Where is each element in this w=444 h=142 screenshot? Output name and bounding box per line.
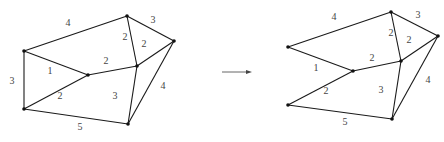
node-B — [22, 107, 26, 111]
edge-weight-label: 2 — [123, 31, 128, 42]
node-G — [390, 117, 394, 121]
edge-A-D — [288, 12, 391, 47]
edge-A-D — [24, 16, 127, 51]
edge-weight-label: 2 — [104, 55, 109, 66]
transform-arrow-icon — [222, 70, 252, 74]
edge-weight-label: 2 — [58, 90, 63, 101]
edge-weight-label: 3 — [416, 9, 421, 20]
edge-weight-label: 2 — [324, 85, 329, 96]
edge-weight-label: 5 — [343, 116, 348, 127]
node-G — [126, 122, 130, 126]
edge-weight-label: 3 — [10, 75, 15, 86]
edge-weight-label: 2 — [407, 34, 412, 45]
edge-B-C — [24, 75, 88, 109]
edge-weight-label: 1 — [48, 65, 53, 76]
edge-B-G — [24, 109, 128, 124]
edge-weight-label: 1 — [314, 62, 319, 73]
graph-before: 43125223234 — [10, 14, 176, 132]
edge-weight-label: 3 — [113, 90, 118, 101]
edge-A-C — [24, 51, 88, 75]
edge-weight-label: 3 — [151, 14, 156, 25]
edge-A-C — [288, 47, 353, 71]
edge-D-F — [127, 16, 137, 66]
node-B — [286, 103, 290, 107]
edge-weight-label: 5 — [78, 121, 83, 132]
arrow-head — [246, 70, 252, 74]
edge-B-C — [288, 71, 353, 105]
node-F — [135, 64, 139, 68]
node-C — [86, 73, 90, 77]
node-E — [436, 34, 440, 38]
node-D — [389, 10, 393, 14]
node-A — [22, 49, 26, 53]
edge-weight-label: 4 — [161, 80, 166, 91]
edge-weight-label: 4 — [332, 11, 337, 22]
edge-weight-label: 4 — [66, 17, 71, 28]
edge-C-F — [353, 61, 401, 71]
edge-weight-label: 3 — [379, 84, 384, 95]
edge-D-E — [391, 12, 438, 36]
graph-after: 4125223234 — [286, 9, 440, 127]
edge-weight-label: 4 — [426, 74, 431, 85]
edge-C-F — [88, 66, 137, 75]
edge-weight-label: 2 — [389, 27, 394, 38]
node-E — [172, 39, 176, 43]
node-C — [351, 69, 355, 73]
graph-diagram: 43125223234 4125223234 — [0, 0, 444, 142]
node-D — [125, 14, 129, 18]
edge-weight-label: 2 — [142, 38, 147, 49]
node-A — [286, 45, 290, 49]
node-F — [399, 59, 403, 63]
edge-B-G — [288, 105, 392, 119]
edge-weight-label: 2 — [370, 52, 375, 63]
